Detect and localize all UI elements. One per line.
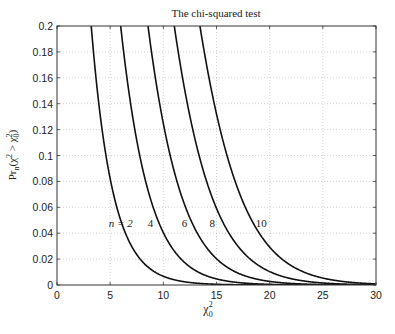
x-tick-label: 20 (264, 289, 276, 301)
x-tick-label: 10 (157, 289, 169, 301)
grid-lines (57, 26, 376, 285)
x-axis-label: χ02 (202, 300, 212, 319)
y-tick-label: 0.14 (33, 98, 54, 110)
chart-title: The chi-squared test (171, 7, 260, 19)
y-tick-label: 0.08 (33, 175, 54, 187)
curve-label-n-4: 4 (148, 217, 154, 229)
y-tick-label: 0.1 (38, 150, 53, 162)
curve-n-10 (58, 0, 376, 284)
y-tick-label: 0.12 (33, 124, 54, 136)
curve-label-n-6: 6 (182, 217, 188, 229)
y-tick-label: 0.16 (33, 72, 54, 84)
y-tick-label: 0.2 (38, 20, 53, 32)
y-tick-label: 0 (47, 279, 53, 291)
y-tick-label: 0.02 (33, 253, 54, 265)
curve-label-n-10: 10 (256, 217, 268, 229)
y-tick-label: 0.06 (33, 201, 54, 213)
curve-label-n-2: n = 2 (109, 217, 133, 229)
chi-squared-chart: The chi-squared test 05101520253000.020.… (0, 0, 395, 334)
x-tick-label: 30 (370, 289, 382, 301)
y-tick-label: 0.18 (33, 46, 54, 58)
x-tick-label: 25 (317, 289, 329, 301)
curve-labels: n = 246810 (109, 217, 267, 229)
x-tick-label: 5 (107, 289, 113, 301)
y-tick-label: 0.04 (33, 227, 54, 239)
x-tick-label: 0 (54, 289, 60, 301)
y-axis-label: Prn(χ2 > χ20) (5, 129, 21, 180)
curve-label-n-8: 8 (209, 217, 215, 229)
